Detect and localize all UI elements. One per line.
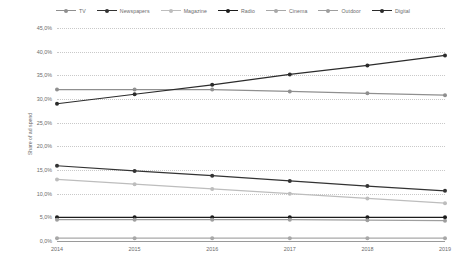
legend-item-radio[interactable]: Radio <box>218 7 255 14</box>
data-point[interactable] <box>55 236 59 240</box>
y-axis-tick-label: 5,0% <box>40 214 52 220</box>
legend-label: Cinema <box>289 8 307 14</box>
legend-swatch-icon <box>56 7 76 14</box>
data-point[interactable] <box>55 102 59 106</box>
legend-item-outdoor[interactable]: Outdoor <box>318 7 360 14</box>
data-point[interactable] <box>133 182 137 186</box>
data-point[interactable] <box>133 88 137 92</box>
line-chart: TVNewspapersMagazineRadioCinemaOutdoorDi… <box>0 0 466 268</box>
data-point[interactable] <box>443 189 447 193</box>
x-axis-tick-label: 2014 <box>51 246 63 252</box>
data-point[interactable] <box>210 174 214 178</box>
legend-item-newspapers[interactable]: Newspapers <box>97 7 150 14</box>
data-point[interactable] <box>288 192 292 196</box>
data-point[interactable] <box>365 218 369 222</box>
data-point[interactable] <box>288 179 292 183</box>
legend-label: Newspapers <box>120 8 150 14</box>
data-point[interactable] <box>443 53 447 57</box>
y-axis-tick-label: 0,0% <box>40 238 52 244</box>
series-line <box>57 166 445 191</box>
y-axis-tick-label: 30,0% <box>37 96 52 102</box>
legend-label: TV <box>79 8 86 14</box>
series-cinema <box>55 236 447 240</box>
chart-legend: TVNewspapersMagazineRadioCinemaOutdoorDi… <box>0 7 466 14</box>
legend-item-tv[interactable]: TV <box>56 7 86 14</box>
data-point[interactable] <box>365 63 369 67</box>
series-newspapers <box>55 164 447 193</box>
legend-label: Outdoor <box>341 8 360 14</box>
legend-swatch-icon <box>266 7 286 14</box>
data-point[interactable] <box>443 236 447 240</box>
legend-item-cinema[interactable]: Cinema <box>266 7 307 14</box>
data-point[interactable] <box>288 236 292 240</box>
x-axis-tick-label: 2015 <box>129 246 141 252</box>
series-line <box>57 220 445 221</box>
data-point[interactable] <box>210 83 214 87</box>
x-axis-tick-label: 2019 <box>439 246 451 252</box>
data-point[interactable] <box>133 218 137 222</box>
data-point[interactable] <box>55 218 59 222</box>
data-point[interactable] <box>210 218 214 222</box>
data-point[interactable] <box>133 236 137 240</box>
series-radio <box>55 215 447 219</box>
series-line <box>57 90 445 96</box>
legend-swatch-icon <box>97 7 117 14</box>
series-outdoor <box>55 218 447 223</box>
y-axis-tick-label: 25,0% <box>37 120 52 126</box>
y-axis-tick-label: 45,0% <box>37 25 52 31</box>
x-axis-line <box>57 241 445 242</box>
plot-area: 0,0%5,0%10,0%15,0%20,0%25,0%30,0%35,0%40… <box>57 28 445 241</box>
data-point[interactable] <box>288 72 292 76</box>
data-point[interactable] <box>365 91 369 95</box>
legend-label: Magazine <box>184 8 207 14</box>
data-point[interactable] <box>133 169 137 173</box>
data-point[interactable] <box>210 88 214 92</box>
data-point[interactable] <box>55 88 59 92</box>
y-axis-tick-label: 20,0% <box>37 143 52 149</box>
data-point[interactable] <box>55 177 59 181</box>
data-point[interactable] <box>443 219 447 223</box>
data-point[interactable] <box>443 93 447 97</box>
y-axis-tick-label: 10,0% <box>37 191 52 197</box>
series-digital <box>55 53 447 105</box>
legend-swatch-icon <box>372 7 392 14</box>
data-point[interactable] <box>210 236 214 240</box>
legend-item-digital[interactable]: Digital <box>372 7 410 14</box>
data-point[interactable] <box>210 187 214 191</box>
x-axis-tick-label: 2017 <box>284 246 296 252</box>
series-magazine <box>55 177 447 205</box>
legend-label: Digital <box>395 8 410 14</box>
data-point[interactable] <box>55 164 59 168</box>
legend-label: Radio <box>241 8 255 14</box>
x-axis-tick-label: 2018 <box>361 246 373 252</box>
y-axis-title: Share of ad spend <box>27 113 33 155</box>
series-line <box>57 179 445 203</box>
data-point[interactable] <box>443 201 447 205</box>
data-point[interactable] <box>288 218 292 222</box>
legend-swatch-icon <box>218 7 238 14</box>
series-tv <box>55 88 447 98</box>
x-axis-tick-label: 2016 <box>206 246 218 252</box>
y-axis-tick-label: 35,0% <box>37 72 52 78</box>
legend-swatch-icon <box>161 7 181 14</box>
y-axis-tick-label: 15,0% <box>37 167 52 173</box>
legend-item-magazine[interactable]: Magazine <box>161 7 207 14</box>
data-point[interactable] <box>365 184 369 188</box>
data-point[interactable] <box>365 196 369 200</box>
series-layer <box>57 28 445 241</box>
legend-swatch-icon <box>318 7 338 14</box>
series-line <box>57 55 445 103</box>
y-axis-tick-label: 40,0% <box>37 49 52 55</box>
data-point[interactable] <box>288 89 292 93</box>
data-point[interactable] <box>133 92 137 96</box>
data-point[interactable] <box>365 236 369 240</box>
